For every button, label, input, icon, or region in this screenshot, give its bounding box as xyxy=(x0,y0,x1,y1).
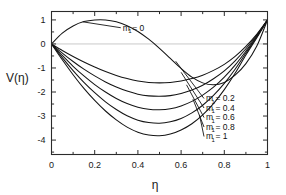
chart-figure: 00.20.40.60.81 10-1-2-3-4 m1= 0.2m1= 0.4… xyxy=(0,0,286,195)
annotation-value: = 0 xyxy=(132,23,144,33)
y-tick-label: 1 xyxy=(40,15,45,25)
y-tick-label: -1 xyxy=(37,63,45,73)
y-tick-label: -2 xyxy=(37,87,45,97)
y-tick-label: -4 xyxy=(37,135,45,145)
x-tick-label: 0.8 xyxy=(218,160,231,170)
y-axis-title: V(η) xyxy=(6,71,29,85)
series-label-value: = 0.2 xyxy=(216,93,235,103)
y-tick-label: -3 xyxy=(37,111,45,121)
x-tick-label: 0.4 xyxy=(132,160,145,170)
x-tick-label: 0 xyxy=(49,160,54,170)
x-axis-title: η xyxy=(152,178,159,192)
x-tick-label: 0.2 xyxy=(88,160,101,170)
series-label-value: = 1 xyxy=(216,131,228,141)
y-tick-label: 0 xyxy=(40,39,45,49)
series-label-value: = 0.6 xyxy=(216,112,235,122)
x-tick-label: 1 xyxy=(265,160,270,170)
series-label-value: = 0.8 xyxy=(216,122,235,132)
line-chart: 00.20.40.60.81 10-1-2-3-4 m1= 0.2m1= 0.4… xyxy=(0,0,286,195)
series-label-value: = 0.4 xyxy=(216,103,235,113)
x-tick-label: 0.6 xyxy=(175,160,188,170)
series-label-5: m1= 1 xyxy=(206,131,228,143)
